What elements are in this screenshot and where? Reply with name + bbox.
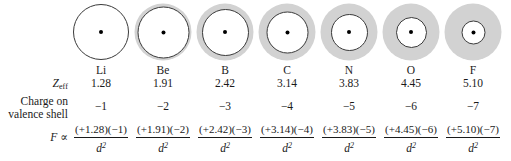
force-expression: (+2.42)(−3)d2: [194, 122, 256, 156]
fraction: (+2.42)(−3)d2: [198, 122, 252, 156]
atom-diagram: [318, 0, 380, 64]
fraction-denominator-exponent: 2: [474, 141, 478, 150]
zeff-value-row: 1.281.912.423.143.834.455.10: [70, 77, 511, 91]
valence-shell-ring: [321, 4, 378, 61]
charge-row-label: Charge onvalence shell: [0, 95, 68, 121]
valence-shell-ring: [135, 4, 192, 61]
nucleus-dot: [99, 30, 103, 34]
fraction: (+4.45)(−6)d2: [384, 122, 438, 156]
zeff-value: 4.45: [380, 77, 442, 90]
valence-charge-value: −7: [442, 100, 504, 113]
element-symbol: B: [194, 64, 256, 77]
fraction-denominator-exponent: 2: [288, 141, 292, 150]
valence-charge-value: −3: [194, 100, 256, 113]
fraction-numerator: (+5.10)(−7): [446, 122, 500, 138]
fraction-denominator-exponent: 2: [102, 141, 106, 150]
atom-diagram: [194, 0, 256, 64]
fraction-denominator: d2: [384, 138, 438, 156]
force-expression: (+4.45)(−6)d2: [380, 122, 442, 156]
valence-charge-row: −1−2−3−4−5−6−7: [70, 100, 511, 114]
atom-core-circle: [266, 11, 308, 53]
atom-core-circle: [202, 9, 249, 56]
valence-shell-ring: [73, 4, 129, 60]
atom-diagram: [132, 0, 194, 64]
atom-diagram: [442, 0, 504, 64]
fraction-denominator-exponent: 2: [164, 141, 168, 150]
atom-core-circle: [73, 4, 129, 60]
fraction: (+3.83)(−5)d2: [322, 122, 376, 156]
element-symbol: F: [442, 64, 504, 77]
atom-diagram: [256, 0, 318, 64]
nucleus-dot: [471, 30, 475, 34]
valence-shell-ring: [197, 4, 254, 61]
fraction-denominator: d2: [322, 138, 376, 156]
force-expression: (+1.91)(−2)d2: [132, 122, 194, 156]
force-expression: (+1.28)(−1)d2: [70, 122, 132, 156]
force-expression: (+3.14)(−4)d2: [256, 122, 318, 156]
nucleus-dot: [223, 30, 227, 34]
valence-charge-value: −4: [256, 100, 318, 113]
zeff-row-label: Zeff: [0, 77, 68, 93]
nucleus-dot: [161, 30, 165, 34]
fraction-denominator-exponent: 2: [412, 141, 416, 150]
fraction: (+5.10)(−7)d2: [446, 122, 500, 156]
fraction-denominator-exponent: 2: [226, 141, 230, 150]
fraction: (+3.14)(−4)d2: [260, 122, 314, 156]
fraction-numerator: (+1.91)(−2): [136, 122, 190, 138]
nucleus-dot: [409, 30, 413, 34]
atom-diagram: [380, 0, 442, 64]
charge-label-line1: Charge on: [21, 95, 68, 107]
fraction-denominator: d2: [260, 138, 314, 156]
valence-charge-value: −2: [132, 100, 194, 113]
force-row-label: F∝: [0, 131, 68, 144]
valence-charge-value: −5: [318, 100, 380, 113]
zeff-value: 2.42: [194, 77, 256, 90]
fraction-denominator: d2: [74, 138, 128, 156]
element-symbol: Li: [70, 64, 132, 77]
fraction-numerator: (+4.45)(−6): [384, 122, 438, 138]
force-expression: (+5.10)(−7)d2: [442, 122, 504, 156]
element-symbol: N: [318, 64, 380, 77]
element-symbol-row: LiBeBCNOF: [70, 64, 511, 78]
nucleus-dot: [285, 30, 289, 34]
fraction-numerator: (+1.28)(−1): [74, 122, 128, 138]
zeff-value: 3.83: [318, 77, 380, 90]
zeff-value: 3.14: [256, 77, 318, 90]
fraction: (+1.91)(−2)d2: [136, 122, 190, 156]
valence-shell-ring: [259, 4, 316, 61]
atom-core-circle: [331, 14, 368, 51]
zeff-value: 5.10: [442, 77, 504, 90]
valence-shell-ring: [383, 4, 440, 61]
fraction-denominator: d2: [198, 138, 252, 156]
fraction-numerator: (+3.14)(−4): [260, 122, 314, 138]
valence-charge-value: −6: [380, 100, 442, 113]
proportional-to-icon: ∝: [57, 131, 68, 143]
force-expression: (+3.83)(−5)d2: [318, 122, 380, 156]
fraction-numerator: (+2.42)(−3): [198, 122, 252, 138]
valence-shell-ring: [445, 4, 502, 61]
atom-core-circle: [396, 17, 427, 48]
charge-label-line2: valence shell: [8, 108, 68, 120]
valence-charge-value: −1: [70, 100, 132, 113]
zeff-value: 1.91: [132, 77, 194, 90]
fraction-denominator: d2: [136, 138, 190, 156]
zeff-value: 1.28: [70, 77, 132, 90]
atomic-radius-figure: Zeff Charge onvalence shell F∝ LiBeBCNOF…: [0, 0, 511, 161]
fraction-denominator-exponent: 2: [350, 141, 354, 150]
force-expression-row: (+1.28)(−1)d2(+1.91)(−2)d2(+2.42)(−3)d2(…: [70, 122, 511, 160]
element-symbol: O: [380, 64, 442, 77]
zeff-label-subscript: eff: [59, 82, 68, 91]
atom-core-circle: [461, 20, 485, 44]
fraction-numerator: (+3.83)(−5): [322, 122, 376, 138]
atom-diagram-row: [70, 0, 511, 64]
fraction-denominator: d2: [446, 138, 500, 156]
nucleus-dot: [347, 30, 351, 34]
atom-diagram: [70, 0, 132, 64]
fraction: (+1.28)(−1)d2: [74, 122, 128, 156]
element-symbol: C: [256, 64, 318, 77]
atom-core-circle: [137, 6, 189, 58]
element-symbol: Be: [132, 64, 194, 77]
